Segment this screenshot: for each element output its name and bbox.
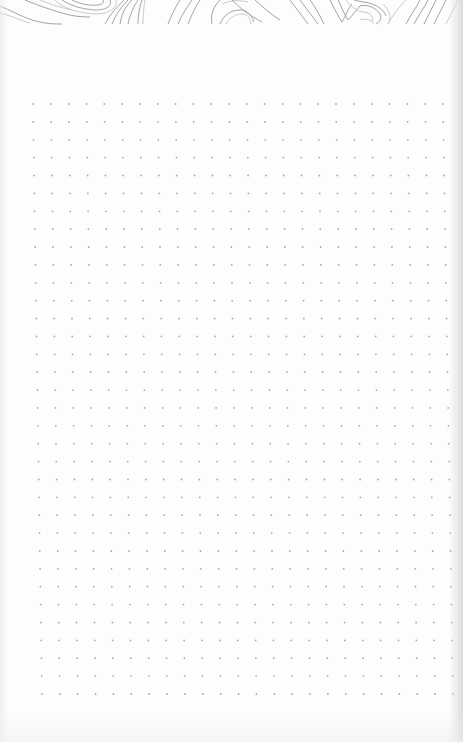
grid-dot xyxy=(415,622,417,624)
grid-dot xyxy=(86,157,88,159)
grid-dot xyxy=(178,282,180,284)
grid-dot xyxy=(283,175,285,177)
grid-dot xyxy=(249,282,251,284)
grid-dot xyxy=(229,139,231,141)
grid-dot xyxy=(37,389,39,391)
grid-dot xyxy=(88,246,90,248)
grid-dot xyxy=(247,157,249,159)
grid-dot xyxy=(214,318,216,320)
grid-dot xyxy=(104,157,106,159)
grid-dot xyxy=(327,675,329,677)
grid-dot xyxy=(362,622,364,624)
grid-dot xyxy=(398,657,400,659)
grid-dot xyxy=(75,550,77,552)
grid-dot xyxy=(266,246,268,248)
grid-dot xyxy=(374,264,376,266)
grid-dot xyxy=(324,532,326,534)
grid-dot xyxy=(107,318,109,320)
grid-dot xyxy=(377,461,379,463)
grid-dot xyxy=(375,371,377,373)
grid-dot xyxy=(248,210,250,212)
grid-dot xyxy=(324,496,326,498)
grid-dot xyxy=(229,157,231,159)
grid-dot xyxy=(89,318,91,320)
grid-dot xyxy=(183,604,185,606)
grid-dot xyxy=(283,210,285,212)
grid-dot xyxy=(305,461,307,463)
grid-dot xyxy=(33,157,35,159)
grid-dot xyxy=(159,210,161,212)
grid-dot xyxy=(52,264,54,266)
grid-dot xyxy=(35,318,37,320)
grid-dot xyxy=(411,371,413,373)
grid-dot xyxy=(41,657,43,659)
grid-dot xyxy=(127,461,129,463)
grid-dot xyxy=(143,353,145,355)
grid-dot xyxy=(37,443,39,445)
grid-dot xyxy=(289,568,291,570)
grid-dot xyxy=(233,425,235,427)
grid-dot xyxy=(56,496,58,498)
grid-dot xyxy=(267,300,269,302)
grid-dot xyxy=(232,353,234,355)
grid-dot xyxy=(379,568,381,570)
grid-dot xyxy=(183,622,185,624)
grid-dot xyxy=(74,532,76,534)
grid-dot xyxy=(123,210,125,212)
grid-dot xyxy=(391,228,393,230)
grid-dot xyxy=(389,139,391,141)
grid-dot xyxy=(359,461,361,463)
grid-dot xyxy=(397,604,399,606)
grid-dot xyxy=(35,282,37,284)
grid-dot xyxy=(193,103,195,105)
page-bottom-shade xyxy=(0,712,463,742)
grid-dot xyxy=(238,693,240,695)
grid-dot xyxy=(92,496,94,498)
grid-dot xyxy=(357,318,359,320)
grid-dot xyxy=(235,496,237,498)
grid-dot xyxy=(443,175,445,177)
grid-dot xyxy=(143,336,145,338)
grid-dot xyxy=(361,568,363,570)
grid-dot xyxy=(288,496,290,498)
grid-dot xyxy=(374,300,376,302)
grid-dot xyxy=(88,228,90,230)
grid-dot xyxy=(57,550,59,552)
grid-dot xyxy=(320,264,322,266)
grid-dot xyxy=(291,657,293,659)
grid-dot xyxy=(354,157,356,159)
grid-dot xyxy=(445,264,447,266)
grid-dot xyxy=(284,264,286,266)
grid-dot xyxy=(270,461,272,463)
grid-dot xyxy=(147,586,149,588)
grid-dot xyxy=(163,479,165,481)
grid-dot xyxy=(442,103,444,105)
grid-dot xyxy=(272,586,274,588)
grid-dot xyxy=(266,264,268,266)
grid-dot xyxy=(343,550,345,552)
grid-dot xyxy=(140,175,142,177)
grid-dot xyxy=(397,622,399,624)
grid-dot xyxy=(36,371,38,373)
grid-dot xyxy=(303,318,305,320)
grid-dot xyxy=(345,675,347,677)
grid-dot xyxy=(193,139,195,141)
grid-dot xyxy=(181,496,183,498)
grid-dot xyxy=(236,604,238,606)
grid-dot xyxy=(92,532,94,534)
grid-dot xyxy=(336,139,338,141)
grid-dot xyxy=(354,175,356,177)
grid-dot xyxy=(431,514,433,516)
grid-dot xyxy=(256,693,258,695)
grid-dot xyxy=(123,228,125,230)
grid-dot xyxy=(163,514,165,516)
grid-dot xyxy=(146,514,148,516)
grid-dot xyxy=(181,514,183,516)
grid-dot xyxy=(122,175,124,177)
grid-dot xyxy=(433,604,435,606)
grid-dot xyxy=(283,193,285,195)
grid-dot xyxy=(304,371,306,373)
grid-dot xyxy=(361,604,363,606)
grid-dot xyxy=(217,496,219,498)
grid-dot xyxy=(128,532,130,534)
